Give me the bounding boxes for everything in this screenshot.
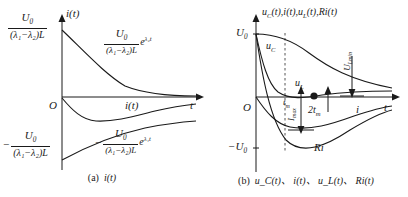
panel-b-curve-ul xyxy=(256,34,392,98)
panel-b-curve-label-uc: uC xyxy=(266,41,275,54)
panel-b-curve-label-i: i xyxy=(356,104,359,115)
panel-a-y-axis-label: i(t) xyxy=(66,8,79,19)
panel-b-x-arrow xyxy=(392,94,400,101)
panel-b-label-u0: U0 xyxy=(236,27,248,41)
panel-b-annotation-ulmin: ULmin xyxy=(343,52,354,71)
panel-a-label-y-bottom: − U0 (λ₁−λ₂)L xyxy=(3,130,50,158)
panel-b-caption: (b) u_C(t)、 i(t)、 u_L(t)、 Ri(t) xyxy=(204,172,408,187)
panel-a-y-arrow xyxy=(59,14,66,22)
panel-b-voltage-current-waveforms: uC(t),i(t),uL(t),Ri(t) U0 −U0 O t uC uL … xyxy=(204,0,408,197)
panel-b-x-axis-label: t xyxy=(384,102,387,113)
panel-a-origin-label: O xyxy=(49,100,57,111)
panel-b-y-axis-title: uC(t),i(t),uL(t),Ri(t) xyxy=(262,7,337,20)
panel-b-origin-label: O xyxy=(243,102,251,113)
panel-a-caption: (a) i(t) xyxy=(0,172,204,183)
panel-b-curve-label-ul: uL xyxy=(295,78,304,91)
panel-b-annotation-2tm: 2tm xyxy=(308,105,321,118)
panel-a-x-arrow xyxy=(196,94,204,101)
panel-b-y-arrow xyxy=(253,14,260,22)
panel-a-x-axis-label: t xyxy=(190,100,193,111)
figure-container: U0 (λ₁−λ₂)L − U0 (λ₁−λ₂)L i(t) t O xyxy=(0,0,408,197)
panel-b-graphics xyxy=(204,0,408,197)
panel-b-arrow-small-right-head xyxy=(325,86,332,94)
panel-b-curve-label-ri: Ri xyxy=(314,142,324,153)
panel-a-curve-lower-formula: − U0 (λ₁−λ₂)L eλ₁t xyxy=(95,128,151,155)
panel-b-annotation-imax: Imax xyxy=(287,108,298,121)
panel-a-label-y-top: U0 (λ₁−λ₂)L xyxy=(8,12,47,40)
panel-a-current-waveform: U0 (λ₁−λ₂)L − U0 (λ₁−λ₂)L i(t) t O xyxy=(0,0,204,197)
panel-a-curve-label-it: i(t) xyxy=(125,100,138,111)
panel-b-marker-2tm xyxy=(310,92,317,99)
panel-a-curve-upper-formula: U0 (λ₁−λ₂)L eλ₂t xyxy=(104,28,152,55)
panel-b-label-minus-u0: −U0 xyxy=(228,141,247,155)
panel-b-curve-uc xyxy=(256,34,392,88)
